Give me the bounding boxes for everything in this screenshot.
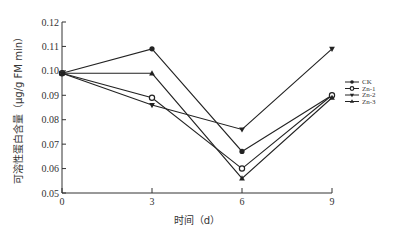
legend: CKZn-1Zn-2Zn-3: [345, 78, 376, 106]
marker-filled-circle-icon: [239, 149, 244, 154]
x-tick-label: 0: [60, 196, 65, 207]
series-ck: [59, 46, 334, 154]
x-axis-title: 时间（d）: [174, 214, 220, 226]
legend-item-zn-3: Zn-3: [345, 98, 376, 106]
x-tick-label: 9: [330, 196, 335, 207]
y-tick-label: 0.08: [42, 114, 60, 125]
y-axis-title: 可溶性蛋白含量（μg/g FM min）: [12, 32, 24, 184]
series-line: [62, 73, 332, 178]
y-tick-label: 0.12: [42, 17, 60, 28]
marker-open-circle-icon: [149, 95, 154, 100]
x-tick-label: 6: [240, 196, 245, 207]
marker-filled-circle-icon: [350, 80, 354, 84]
line-chart: 0.050.060.070.080.090.100.110.120369 CKZ…: [0, 0, 395, 231]
series-line: [62, 49, 332, 152]
axes: 0.050.060.070.080.090.100.110.120369: [42, 17, 335, 208]
y-tick-label: 0.05: [42, 188, 60, 199]
x-tick-label: 3: [150, 196, 155, 207]
series-zn-1: [59, 71, 334, 171]
marker-filled-circle-icon: [149, 46, 154, 51]
y-tick-label: 0.10: [42, 65, 60, 76]
series-lines: [59, 46, 335, 180]
legend-label: Zn-3: [362, 98, 376, 106]
marker-inverted-triangle-icon: [239, 127, 245, 132]
y-tick-label: 0.07: [42, 139, 60, 150]
marker-open-circle-icon: [350, 87, 354, 91]
series-line: [62, 49, 332, 130]
y-tick-label: 0.11: [42, 41, 59, 52]
y-tick-label: 0.06: [42, 163, 60, 174]
marker-open-circle-icon: [239, 166, 244, 171]
y-tick-label: 0.09: [42, 90, 60, 101]
